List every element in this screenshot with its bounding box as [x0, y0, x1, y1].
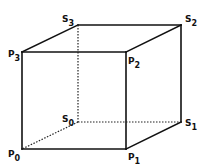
vertex-label-s1: S1: [185, 118, 197, 132]
vertex-label-p2: P2: [128, 56, 140, 70]
vertex-label-s3: S3: [62, 14, 74, 28]
vertex-label-p1: P1: [128, 152, 141, 164]
vertex-label-p3: P3: [8, 49, 20, 63]
vertex-label-p0: P0: [8, 149, 21, 163]
cube-diagram: P0P1P2P3S0S1S2S3: [0, 0, 211, 164]
edge-p3-s3: [22, 25, 78, 52]
vertex-label-s2: S2: [185, 14, 197, 28]
edge-s1-p1: [126, 122, 181, 149]
vertex-label-s0: S0: [62, 114, 74, 128]
edge-s2-p2: [126, 25, 181, 52]
